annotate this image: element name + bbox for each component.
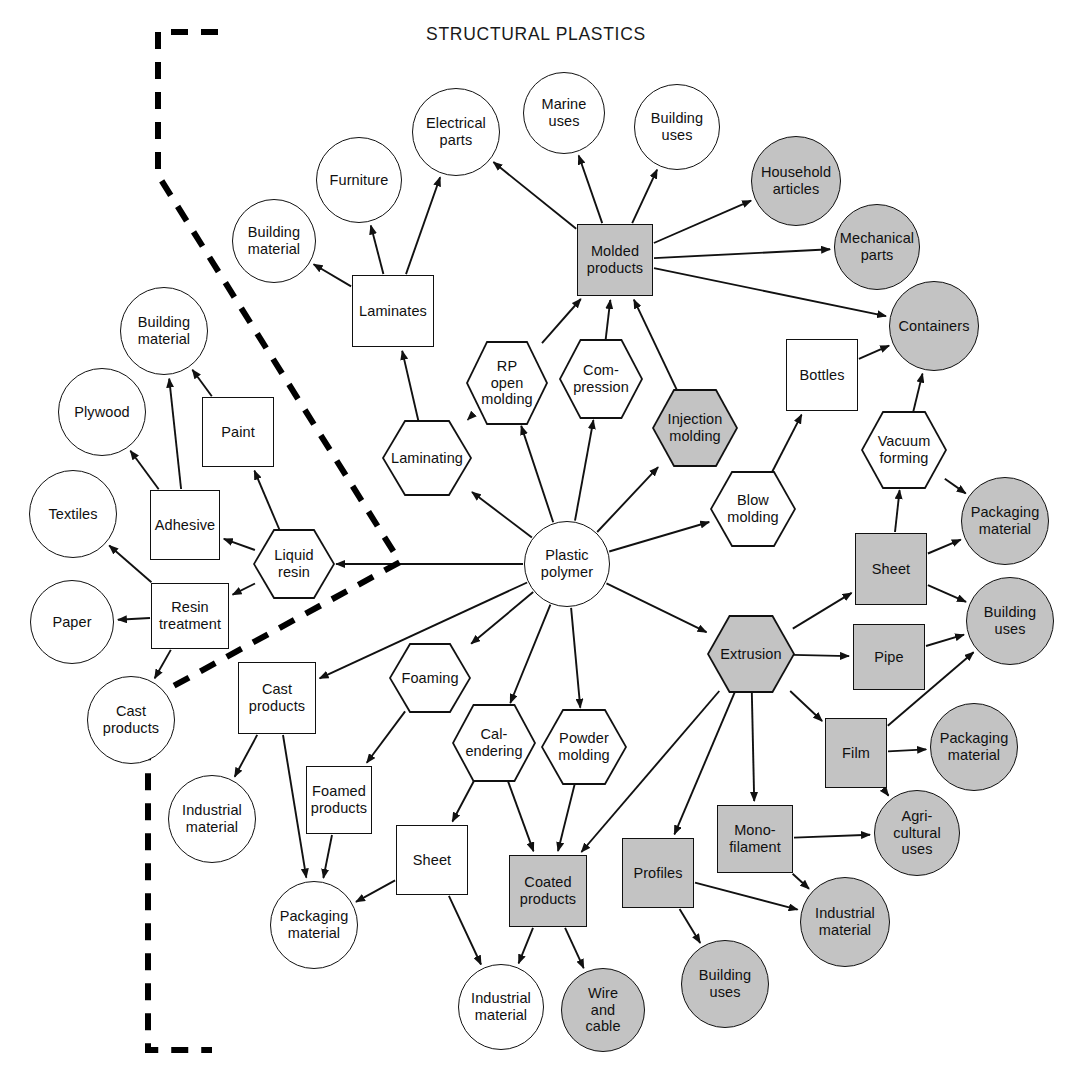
node-label: Householdarticles [759,164,833,197]
node-extrusion[interactable]: Extrusion [707,615,795,693]
node-sheet-right[interactable]: Sheet [855,533,927,605]
node-injection-molding[interactable]: Injectionmolding [652,389,738,467]
node-building-material-left[interactable]: Buildingmaterial [120,287,208,375]
edge-molded-products-to-marine-uses [579,156,603,224]
node-industrial-material-right[interactable]: Industrialmaterial [800,877,890,967]
node-rp-open-molding[interactable]: RPopenmolding [466,341,548,425]
edge-sheet-left-to-packaging-material-left [356,880,395,902]
edge-adhesive-to-building-material-left [169,379,181,489]
node-label: Vacuumforming [876,433,933,466]
node-powder-molding[interactable]: Powdermolding [541,709,627,785]
edge-laminating-to-laminates [402,351,418,422]
node-blow-molding[interactable]: Blowmolding [710,471,796,547]
node-sheet-left[interactable]: Sheet [396,825,468,895]
node-resin-treatment[interactable]: Resintreatment [151,583,229,649]
node-label: Liquidresin [272,547,315,580]
node-cast-products-rect[interactable]: Castproducts [238,662,316,734]
node-label: Profiles [631,865,684,882]
node-bottles[interactable]: Bottles [786,339,858,411]
node-building-uses-top[interactable]: Buildinguses [634,84,720,170]
node-packaging-material-film[interactable]: Packagingmaterial [930,703,1018,791]
edge-plastic-polymer-to-compression [575,420,593,521]
node-profiles[interactable]: Profiles [622,838,694,908]
node-electrical-parts[interactable]: Electricalparts [412,88,500,176]
edge-film-to-agricultural-uses [883,789,888,796]
node-pipe[interactable]: Pipe [853,624,925,690]
node-foaming[interactable]: Foaming [389,643,471,713]
edge-extrusion-to-pipe [793,655,849,656]
edge-extrusion-to-film [790,691,822,721]
edge-sheet-right-to-building-uses-right [928,585,966,602]
edge-cast-products-rect-to-packaging-material-left [283,735,306,878]
node-label: Plasticpolymer [539,547,595,580]
node-film[interactable]: Film [825,718,887,788]
node-plywood[interactable]: Plywood [58,368,146,456]
node-vacuum-forming[interactable]: Vacuumforming [861,411,947,489]
node-furniture[interactable]: Furniture [316,137,402,223]
edge-calendering-to-sheet-left [452,780,474,821]
node-monofilament[interactable]: Mono-filament [717,805,793,873]
edge-monofilament-to-industrial-material-right [793,874,809,889]
node-liquid-resin[interactable]: Liquidresin [253,529,335,599]
node-label: Buildingmaterial [246,224,302,257]
node-containers[interactable]: Containers [889,281,979,371]
node-industrial-material-left[interactable]: Industrialmaterial [168,775,256,863]
edge-vacuum-forming-to-containers [913,374,923,413]
edge-liquid-resin-to-adhesive [224,539,255,550]
edge-resin-treatment-to-textiles [109,546,151,583]
edge-plastic-polymer-to-calendering [510,605,550,703]
node-label: Industrialmaterial [180,802,244,835]
node-label: Sheet [870,561,912,578]
node-household-articles[interactable]: Householdarticles [751,136,841,226]
node-industrial-material-bottom[interactable]: Industrialmaterial [458,964,544,1050]
node-label: Injectionmolding [666,411,725,444]
edge-laminates-to-furniture [371,226,384,275]
node-compression[interactable]: Com-pression [559,339,643,419]
node-building-uses-right[interactable]: Buildinguses [966,577,1054,665]
node-laminates[interactable]: Laminates [352,275,434,347]
node-agricultural-uses[interactable]: Agri-culturaluses [874,790,960,876]
node-label: Furniture [328,172,391,189]
node-packaging-material-right[interactable]: Packagingmaterial [961,477,1049,565]
edge-blow-molding-to-bottles [772,415,802,473]
node-label: Textiles [46,506,99,523]
node-cast-products-circle[interactable]: Castproducts [87,676,175,764]
node-label: Foamedproducts [309,783,369,816]
edge-vacuum-forming-to-packaging-material-right [945,479,966,494]
node-laminating[interactable]: Laminating [382,420,472,496]
node-label: Moldedproducts [585,243,645,276]
node-packaging-material-left[interactable]: Packagingmaterial [270,881,358,969]
edge-liquid-resin-to-paint [254,471,279,531]
edge-resin-treatment-to-paper [118,618,150,620]
node-label: Buildinguses [982,604,1038,637]
edge-molded-products-to-electrical-parts [493,162,576,229]
node-label: Adhesive [153,517,217,534]
node-marine-uses[interactable]: Marineuses [523,72,605,154]
diagram-canvas: STRUCTURAL PLASTICS BuildingmaterialFurn… [0,0,1072,1077]
node-molded-products[interactable]: Moldedproducts [577,224,653,296]
node-plastic-polymer[interactable]: Plasticpolymer [524,521,610,607]
node-label: Wireandcable [583,985,622,1035]
node-building-material-top[interactable]: Buildingmaterial [232,199,316,283]
node-coated-products[interactable]: Coatedproducts [509,855,587,927]
node-adhesive[interactable]: Adhesive [150,490,220,560]
node-label: Extrusion [718,646,783,663]
node-paint[interactable]: Paint [202,397,274,467]
node-label: Buildinguses [697,967,753,1000]
node-mechanical-parts[interactable]: Mechanicalparts [834,204,920,290]
node-label: Coatedproducts [518,874,578,907]
node-label: Cal-endering [463,726,524,759]
edge-foaming-to-foamed-products [367,711,405,762]
node-textiles[interactable]: Textiles [29,470,117,558]
node-foamed-products[interactable]: Foamedproducts [306,766,372,834]
node-calendering[interactable]: Cal-endering [452,704,536,782]
edge-calendering-to-coated-products [508,780,534,851]
node-wire-and-cable[interactable]: Wireandcable [561,968,645,1052]
edge-laminates-to-building-material-top [314,264,352,286]
edge-cast-products-rect-to-industrial-material-left [235,735,258,777]
node-paper[interactable]: Paper [30,580,114,664]
node-building-uses-bottom[interactable]: Buildinguses [681,940,769,1028]
edge-rp-open-molding-to-molded-products [542,299,581,343]
edge-molded-products-to-building-uses-top [632,170,657,224]
edge-laminates-to-electrical-parts [406,177,440,274]
